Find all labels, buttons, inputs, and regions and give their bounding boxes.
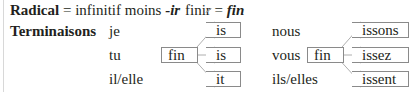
radical-box-singular: fin <box>161 47 198 63</box>
ending-tag-il-elle: it <box>206 71 241 87</box>
ending-tag-je: is <box>206 22 241 38</box>
ending-tag-nous: issons <box>352 22 409 38</box>
radical-box-plural: fin <box>307 47 344 63</box>
ending-tag-tu: is <box>206 47 241 63</box>
ending-tag-ils-elles: issent <box>352 71 409 87</box>
pronoun-nous: nous <box>272 22 300 40</box>
pronoun-ils-elles: ils/elles <box>272 70 318 88</box>
ending-tag-vous: issez <box>352 47 409 63</box>
pronoun-vous: vous <box>272 46 300 64</box>
